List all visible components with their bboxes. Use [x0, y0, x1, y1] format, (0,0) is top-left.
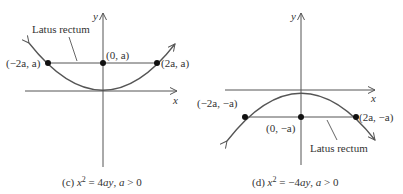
point-left — [242, 114, 248, 120]
point-left-label: (−2a, −a) — [197, 97, 238, 110]
point-focus-label: (0, a) — [106, 49, 130, 62]
x-axis-label: x — [172, 94, 178, 106]
panel-d: x y Latus rectum (−2a, −a) (0, −a) (2a, … — [197, 10, 394, 189]
point-right — [154, 60, 160, 66]
point-left-label: (−2a, a) — [6, 57, 41, 70]
caption-d: (d) x2 = −4ay, a > 0 — [252, 175, 339, 189]
panel-c: x y Latus rectum (−2a, a) (0, a) (2a, a)… — [6, 10, 189, 189]
latus-rectum-pointer — [69, 37, 77, 61]
latus-rectum-label: Latus rectum — [310, 142, 368, 154]
caption-c: (c) x2 = 4ay, a > 0 — [62, 175, 142, 189]
parabola-curve — [29, 43, 175, 90]
point-left — [45, 60, 51, 66]
x-axis-label: x — [370, 92, 376, 104]
point-right-label: (2a, −a) — [359, 111, 394, 124]
latus-rectum-pointer — [327, 120, 337, 140]
parabola-diagram: x y Latus rectum (−2a, a) (0, a) (2a, a)… — [0, 0, 403, 194]
point-focus — [298, 114, 304, 120]
y-axis-label: y — [92, 10, 98, 22]
y-axis-label: y — [290, 10, 296, 22]
point-focus-label: (0, −a) — [266, 122, 296, 135]
point-right-label: (2a, a) — [161, 57, 189, 70]
latus-rectum-label: Latus rectum — [32, 23, 90, 35]
